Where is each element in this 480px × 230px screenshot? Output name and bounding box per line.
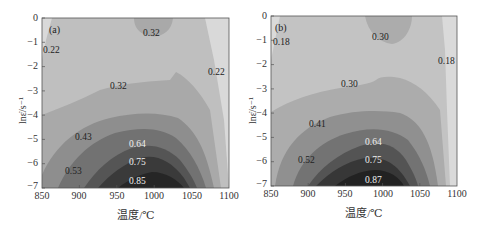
x-tick: 850 — [27, 191, 57, 201]
y-tick: −3 — [251, 84, 267, 94]
x-tick: 1100 — [442, 189, 472, 199]
contour-label: 0.30 — [341, 79, 358, 89]
contour-label: 0.52 — [298, 155, 315, 165]
contour-label: 0.22 — [208, 67, 225, 77]
y-tick: 0 — [22, 13, 38, 23]
contour-label: 0.64 — [129, 139, 146, 149]
contour-label: 0.53 — [65, 166, 82, 176]
y-tick: −5 — [251, 132, 267, 142]
contour-label: 0.32 — [110, 81, 127, 91]
contour-label: 0.87 — [365, 175, 382, 185]
contour-label: 0.32 — [143, 28, 160, 38]
x-tick: 950 — [102, 191, 132, 201]
y-tick: −1 — [22, 37, 38, 47]
panel-label: (b) — [275, 22, 287, 33]
contour-label: 0.75 — [129, 157, 146, 167]
y-axis-label: lnε̇/s⁻¹ — [17, 97, 28, 124]
y-tick: −5 — [22, 134, 38, 144]
x-tick: 900 — [293, 189, 323, 199]
contour-label: 0.85 — [129, 176, 146, 186]
y-tick: −1 — [251, 35, 267, 45]
x-tick: 1050 — [177, 191, 207, 201]
y-tick: −2 — [251, 59, 267, 69]
y-tick: 0 — [251, 11, 267, 21]
panel-label: (a) — [49, 24, 60, 35]
contour-label: 0.64 — [365, 137, 382, 147]
x-tick: 1000 — [139, 191, 169, 201]
y-tick: −2 — [22, 61, 38, 71]
x-tick: 850 — [256, 189, 286, 199]
x-tick: 950 — [330, 189, 360, 199]
y-axis-label: lnε̇/s⁻¹ — [247, 97, 258, 124]
y-tick: −6 — [251, 156, 267, 166]
y-tick: −3 — [22, 86, 38, 96]
contour-label: 0.18 — [438, 56, 455, 66]
contour-label: 0.18 — [273, 37, 290, 47]
x-axis-label: 温度/℃ — [314, 204, 414, 220]
x-tick: 1000 — [368, 189, 398, 199]
contour-label: 0.43 — [75, 132, 92, 142]
contour-label: 0.30 — [372, 32, 389, 42]
contour-panel-b: 0 −1 −2 −3 −4 −5 −6 −7 850 900 950 1000 … — [240, 0, 480, 230]
x-tick: 1050 — [405, 189, 435, 199]
contour-label: 0.41 — [309, 119, 326, 129]
y-tick: −6 — [22, 158, 38, 168]
x-axis-label: 温度/℃ — [86, 206, 186, 222]
x-tick: 900 — [64, 191, 94, 201]
contour-label: 0.75 — [365, 155, 382, 165]
contour-label: 0.22 — [43, 45, 60, 55]
contour-panel-a: 0 −1 −2 −3 −4 −5 −6 −7 850 900 950 1000 … — [0, 0, 240, 230]
